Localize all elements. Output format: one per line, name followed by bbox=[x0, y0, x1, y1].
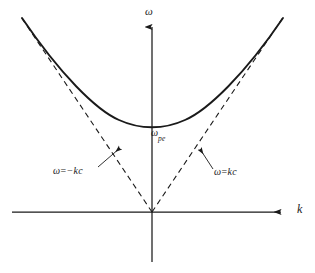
k-axis-label: k bbox=[297, 203, 302, 215]
asymptote-left-leader-line bbox=[98, 148, 120, 167]
asymptote-right-rhs: kc bbox=[228, 166, 237, 177]
cutoff-symbol: ω bbox=[151, 127, 158, 138]
asymptote-right-label: ω=kc bbox=[214, 167, 237, 177]
asymptote-left-rhs: −kc bbox=[67, 165, 84, 176]
omega-axis-label: ω bbox=[145, 6, 153, 17]
asymptote-negative-kc-line bbox=[21, 17, 152, 212]
plasma-frequency-cutoff-label: ωpe bbox=[151, 128, 166, 141]
dispersion-relation-figure: ω k ωpe ω=−kc ω=kc bbox=[0, 0, 315, 273]
asymptote-right-leader-line bbox=[200, 149, 213, 169]
cutoff-subscript: pe bbox=[158, 134, 165, 143]
asymptote-left-label: ω=−kc bbox=[53, 166, 83, 176]
